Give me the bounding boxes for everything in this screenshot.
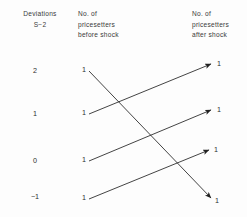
pricesetter-transition-diagram: Deviations S−2 No. of pricesetters befor… [0, 0, 247, 217]
transition-arrows [0, 0, 247, 217]
transition-arrow-2-to-minus1 [89, 71, 211, 198]
transition-arrow-1-to-2 [89, 64, 211, 114]
transition-arrow-minus1-to-0 [89, 150, 209, 199]
transition-arrow-0-to-1 [89, 110, 211, 161]
